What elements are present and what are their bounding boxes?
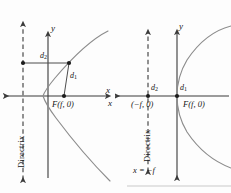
left-focus-label: F(f, 0) [52,100,74,109]
left-d2-label: d2 [40,52,47,60]
left-y-axis-label: y [51,24,55,33]
right-focus-dot [175,94,179,98]
left-curve-point-dot [67,61,71,65]
right-diagram-panel: y x d2 d1 (−f, 0) F(f, 0) Directrix x = … [115,0,231,193]
right-directrix-point-label: (−f, 0) [131,100,153,109]
right-directrix-point-dot [146,94,150,98]
left-d1-label: d1 [70,72,77,80]
right-focus-label: F(f, 0) [183,100,205,109]
left-directrix-label: Directrix [16,136,26,168]
left-focus-dot [62,94,66,98]
right-d1-label: d1 [180,84,187,92]
right-x-axis-label: x [106,86,110,95]
right-directrix-equation-label: x = −f [133,166,155,175]
right-parabola-curve [177,26,231,168]
left-diagram-panel: y x d2 d1 F(f, 0) Directrix [0,0,115,193]
left-d1-segment [64,63,69,96]
right-y-axis-label: y [179,22,183,31]
parabola-figure: y x d2 d1 F(f, 0) Directrix [0,0,231,193]
right-d2-label: d2 [151,84,158,92]
left-x-axis-label: x [108,99,112,108]
right-directrix-label: Directrix [142,130,152,162]
left-directrix-foot-dot [21,61,25,65]
